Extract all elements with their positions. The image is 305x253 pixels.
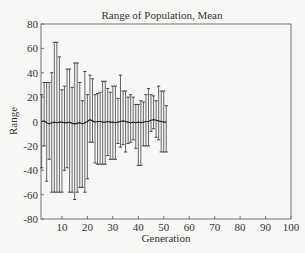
x-tick-label: 90 [260,221,272,233]
x-axis-label: Generation [142,232,191,244]
mean-line [42,120,167,124]
chart-title: Range of Population, Mean [102,9,223,21]
y-tick-label: -80 [23,213,38,225]
chart: Range of Population, Mean 806040200-20-4… [0,0,305,253]
y-tick-label: 80 [27,18,39,30]
x-tick-label: 10 [56,221,68,233]
y-tick-label: -20 [23,140,38,152]
y-tick-label: -40 [23,164,38,176]
x-tick-label: 70 [209,221,221,233]
x-tick-label: 100 [283,221,300,233]
x-tick-label: 30 [107,221,119,233]
y-tick-label: 0 [33,116,39,128]
x-tick-label: 80 [235,221,247,233]
x-axis: 102030405060708090100 [56,216,299,233]
y-tick-label: 20 [27,91,39,103]
y-tick-label: 60 [27,42,39,54]
y-tick-label: -60 [23,189,38,201]
y-tick-label: 40 [27,67,39,79]
y-axis-label: Range [7,107,19,135]
x-tick-label: 20 [82,221,94,233]
